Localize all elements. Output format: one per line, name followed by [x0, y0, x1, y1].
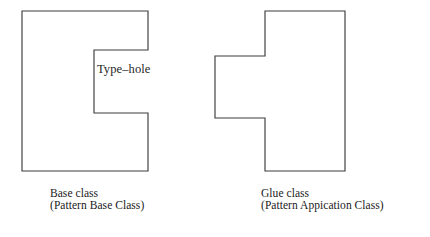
glue-class-shape: [215, 11, 345, 171]
base-class-caption: Base class (Pattern Base Class): [50, 187, 144, 211]
base-class-caption-line-2: (Pattern Base Class): [50, 199, 144, 211]
base-class-caption-line-1: Base class: [50, 187, 144, 199]
base-class-shape: [22, 11, 148, 171]
diagram-canvas: Type–hole Base class (Pattern Base Class…: [0, 0, 430, 237]
glue-class-caption: Glue class (Pattern Appication Class): [261, 187, 384, 211]
glue-class-caption-line-2: (Pattern Appication Class): [261, 199, 384, 211]
type-hole-label: Type–hole: [97, 61, 150, 77]
glue-class-caption-line-1: Glue class: [261, 187, 384, 199]
